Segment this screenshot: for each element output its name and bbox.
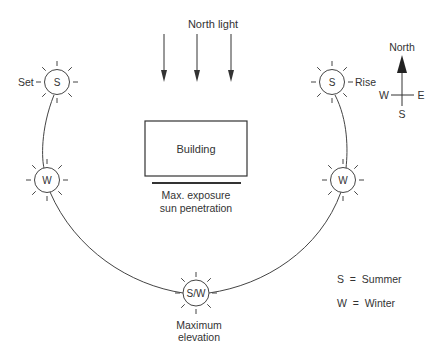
east-winter-symbol: W: [338, 175, 348, 186]
exposure-label-2: sun penetration: [160, 202, 233, 214]
max-elevation-label-1: Maximum: [176, 319, 222, 331]
rise-sun-symbol: S: [329, 77, 336, 88]
north-arrow-icon: [397, 55, 407, 73]
compass-west: W: [379, 89, 389, 101]
north-light-label: North light: [188, 18, 238, 30]
max-sun-symbol: S/W: [187, 288, 206, 299]
set-sun-symbol: S: [54, 77, 61, 88]
compass-north: North: [389, 41, 415, 53]
north-light-arrows: [164, 34, 231, 75]
exposure-label-1: Max. exposure: [162, 189, 231, 201]
legend-winter: W = Winter: [337, 297, 396, 309]
arrowheads: [161, 70, 234, 82]
compass-east: E: [417, 89, 424, 101]
legend-summer: S = Summer: [337, 273, 402, 285]
rise-label: Rise: [355, 76, 376, 88]
sun-path-diagram: North light Building Max. exposure sun p…: [0, 0, 444, 361]
west-winter-symbol: W: [42, 175, 52, 186]
compass-south: S: [398, 108, 405, 120]
max-elevation-label-2: elevation: [178, 331, 220, 343]
set-label: Set: [18, 76, 34, 88]
building-label: Building: [176, 143, 215, 155]
